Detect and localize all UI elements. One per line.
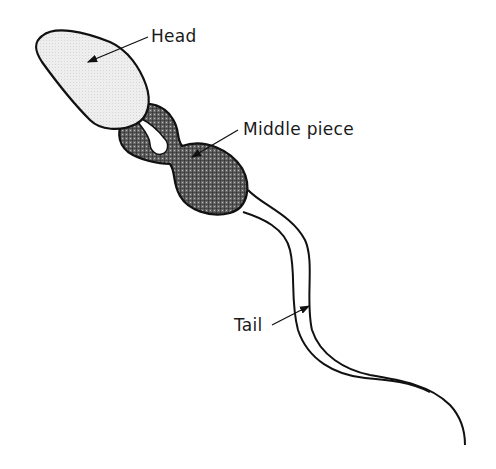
tail-pointer xyxy=(272,306,309,325)
tail-label: Tail xyxy=(234,317,263,334)
head xyxy=(36,30,149,129)
head-label: Head xyxy=(151,28,197,45)
tail xyxy=(243,190,465,445)
sperm-diagram xyxy=(0,0,496,469)
middle-piece-label: Middle piece xyxy=(243,121,354,138)
